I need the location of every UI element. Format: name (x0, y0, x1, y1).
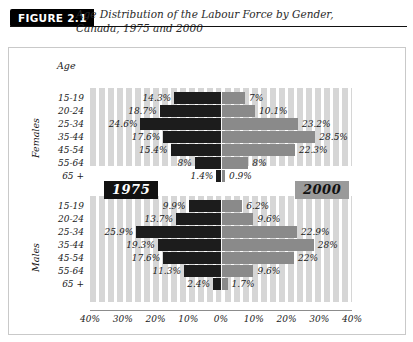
bar-value-2000: 9.6% (257, 213, 280, 225)
bar-value-2000: 6.2% (246, 200, 269, 212)
bar-value-1975: 15.4% (139, 144, 168, 156)
axis-title-age: Age (57, 60, 76, 71)
figure-title: Age Distribution of the Labour Force by … (76, 8, 407, 35)
bar-1975 (195, 157, 221, 169)
age-tick-label: 35-44 (38, 239, 84, 251)
x-tick-label: 30% (309, 314, 329, 324)
center-axis-line (221, 88, 222, 302)
bar-value-1975: 19.3% (126, 239, 155, 251)
bar-value-2000: 10.1% (259, 105, 288, 117)
age-tick-column: 15-1920-2425-3435-4445-5455-6465 + (38, 200, 84, 291)
bar-2000 (222, 213, 253, 225)
bar-1975 (176, 213, 221, 225)
bar-1975 (163, 252, 221, 264)
bar-value-2000: 9.6% (257, 265, 280, 277)
gender-label-males: Males (30, 243, 41, 272)
age-tick-label: 55-64 (38, 265, 84, 277)
x-tick-label: 40% (342, 314, 362, 324)
bar-1975 (213, 278, 221, 290)
bar-value-2000: 28.5% (319, 131, 348, 143)
figure-title-line-1: Age Distribution of the Labour Force by … (76, 8, 334, 20)
x-tick-label: 40% (80, 314, 100, 324)
bar-1975 (171, 144, 221, 156)
bar-2000 (222, 118, 298, 130)
bar-value-1975: 18.7% (128, 105, 157, 117)
bar-1975 (140, 118, 221, 130)
figure-container: FIGURE 2.1 Age Distribution of the Labou… (0, 0, 413, 342)
age-tick-label: 65 + (38, 170, 84, 182)
bar-value-1975: 14.3% (143, 92, 172, 104)
bar-2000 (222, 131, 315, 143)
bar-1975 (163, 131, 221, 143)
age-tick-label: 25-34 (38, 226, 84, 238)
bar-2000 (222, 144, 295, 156)
bar-2000 (222, 252, 294, 264)
x-tick-label: 20% (145, 314, 165, 324)
gender-label-females: Females (30, 118, 41, 158)
bar-value-2000: 8% (252, 157, 266, 169)
bar-value-2000: 22.3% (299, 144, 328, 156)
bar-value-1975: 1.4% (191, 170, 214, 182)
bar-value-1975: 17.6% (132, 252, 161, 264)
bar-value-1975: 8% (178, 157, 192, 169)
bar-value-1975: 13.7% (145, 213, 174, 225)
bar-2000 (222, 157, 248, 169)
bar-1975 (174, 92, 221, 104)
bar-2000 (222, 200, 242, 212)
age-tick-label: 65 + (38, 278, 84, 290)
age-tick-label: 35-44 (38, 131, 84, 143)
bar-value-1975: 9.9% (163, 200, 186, 212)
age-tick-label: 15-19 (38, 92, 84, 104)
x-tick-label: 10% (244, 314, 264, 324)
bar-value-2000: 28% (318, 239, 338, 251)
bar-2000 (222, 278, 228, 290)
bar-2000 (222, 105, 255, 117)
bar-value-2000: 0.9% (229, 170, 252, 182)
age-tick-label: 45-54 (38, 144, 84, 156)
header-divider (10, 26, 407, 27)
bar-value-2000: 23.2% (302, 118, 331, 130)
bar-value-2000: 22% (298, 252, 318, 264)
legend-1975: 1975 (104, 181, 158, 199)
bar-value-1975: 24.6% (109, 118, 138, 130)
bar-2000 (222, 92, 245, 104)
bar-1975 (189, 200, 221, 212)
age-tick-label: 20-24 (38, 213, 84, 225)
bar-2000 (222, 226, 297, 238)
age-tick-label: 45-54 (38, 252, 84, 264)
x-axis-line (90, 310, 352, 311)
x-tick-label: 10% (178, 314, 198, 324)
age-tick-label: 55-64 (38, 157, 84, 169)
bar-2000 (222, 170, 225, 182)
legend-2000: 2000 (295, 181, 349, 199)
age-tick-label: 25-34 (38, 118, 84, 130)
age-tick-column: 15-1920-2425-3435-4445-5455-6465 + (38, 92, 84, 183)
figure-title-line-2: Canada, 1975 and 2000 (76, 22, 203, 34)
figure-header: FIGURE 2.1 Age Distribution of the Labou… (10, 9, 407, 41)
bar-value-2000: 7% (249, 92, 263, 104)
x-tick-label: 30% (113, 314, 133, 324)
bar-value-1975: 11.3% (152, 265, 181, 277)
bar-value-1975: 2.4% (187, 278, 210, 290)
bar-value-2000: 1.7% (232, 278, 255, 290)
x-tick-label: 20% (276, 314, 296, 324)
bar-value-1975: 17.6% (132, 131, 161, 143)
x-tick-label: 0% (214, 314, 228, 324)
bar-1975 (184, 265, 221, 277)
bar-1975 (160, 105, 221, 117)
age-tick-label: 20-24 (38, 105, 84, 117)
age-tick-label: 15-19 (38, 200, 84, 212)
bar-value-1975: 25.9% (105, 226, 134, 238)
bar-2000 (222, 265, 253, 277)
bar-1975 (136, 226, 221, 238)
bar-1975 (158, 239, 221, 251)
bar-2000 (222, 239, 314, 251)
bar-value-2000: 22.9% (301, 226, 330, 238)
